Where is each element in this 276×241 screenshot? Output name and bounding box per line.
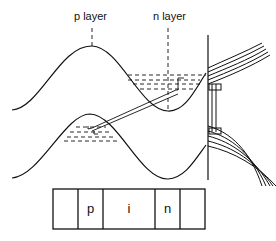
strip-cell-i: i	[103, 201, 155, 216]
n-layer-label: n layer	[153, 10, 186, 22]
conduction-band-curve	[12, 46, 206, 111]
band-diagram-figure: p layer n layer p i n	[0, 0, 276, 241]
p-layer-label: p layer	[74, 10, 107, 22]
strip-cell-p: p	[78, 201, 103, 216]
strip-cell-n: n	[155, 201, 180, 216]
